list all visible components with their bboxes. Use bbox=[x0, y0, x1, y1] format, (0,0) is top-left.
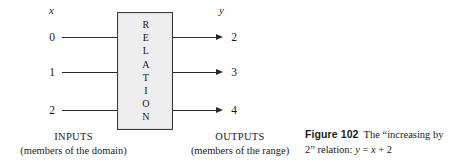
output-wire-2 bbox=[173, 110, 217, 111]
relation-box-label: R E L A T I O N bbox=[118, 18, 174, 124]
outputs-caption-title: OUTPUTS bbox=[170, 130, 310, 144]
relation-letter-e: E bbox=[118, 31, 174, 44]
figure-number: Figure 102 bbox=[305, 128, 359, 140]
relation-letter-r: R bbox=[118, 18, 174, 31]
input-variable-label: x bbox=[49, 5, 54, 16]
outputs-caption-subtitle: (members of the range) bbox=[170, 144, 310, 158]
input-wire-0 bbox=[62, 37, 118, 38]
input-wire-2 bbox=[62, 110, 118, 111]
relation-letter-a: A bbox=[118, 58, 174, 71]
relation-letter-n: N bbox=[118, 110, 174, 123]
inputs-caption-title: INPUTS bbox=[0, 130, 147, 144]
relation-box: R E L A T I O N bbox=[117, 12, 173, 130]
inputs-caption-subtitle: (members of the domain) bbox=[0, 144, 147, 158]
outputs-caption: OUTPUTS (members of the range) bbox=[170, 130, 310, 158]
arrow-head-icon-1 bbox=[216, 69, 223, 75]
relation-letter-t: T bbox=[118, 71, 174, 84]
figure-caption: Figure 102 The “increasing by 2” relatio… bbox=[305, 127, 449, 157]
relation-letter-o: O bbox=[118, 97, 174, 110]
output-wire-0 bbox=[173, 37, 217, 38]
output-variable-label: y bbox=[219, 5, 224, 16]
output-wire-1 bbox=[173, 72, 217, 73]
output-value-2: 4 bbox=[228, 104, 240, 116]
arrow-head-icon-0 bbox=[216, 34, 223, 40]
relation-diagram: x y 0 1 2 R E L A T I O N bbox=[0, 0, 300, 165]
inputs-caption: INPUTS (members of the domain) bbox=[0, 130, 147, 158]
input-wire-1 bbox=[62, 72, 118, 73]
input-value-1: 1 bbox=[46, 66, 58, 78]
output-value-0: 2 bbox=[228, 31, 240, 43]
input-value-0: 0 bbox=[46, 31, 58, 43]
input-value-2: 2 bbox=[46, 104, 58, 116]
arrow-head-icon-2 bbox=[216, 107, 223, 113]
equation-constant: 2 bbox=[387, 144, 392, 155]
relation-letter-i: I bbox=[118, 84, 174, 97]
output-value-1: 3 bbox=[228, 66, 240, 78]
relation-letter-l: L bbox=[118, 44, 174, 57]
figure-relation-machine: x y 0 1 2 R E L A T I O N bbox=[0, 0, 449, 165]
figure-equation: y = x + 2 bbox=[355, 144, 392, 155]
